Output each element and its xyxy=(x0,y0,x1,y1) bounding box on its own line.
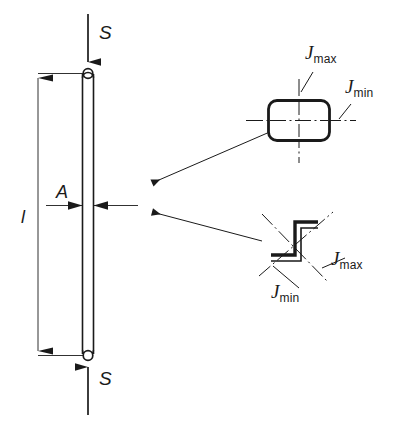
column-shaft xyxy=(83,73,94,356)
bottom-pin-joint xyxy=(83,351,93,361)
rect-section-jmin-label: Jmin xyxy=(345,76,373,100)
rect-section-jmax-label: Jmax xyxy=(305,42,337,66)
figure-canvas: S S l A Jmax Jmin Jmax Jmin xyxy=(0,0,414,442)
leader-to-z-section xyxy=(152,212,262,241)
z-jmax-subscript: max xyxy=(339,258,362,272)
rect-jmax-subscript: max xyxy=(313,52,336,66)
rectangular-section-detail xyxy=(246,72,356,163)
leader-to-rect-section xyxy=(152,131,272,183)
diagram-vector-layer xyxy=(0,0,414,442)
force-label-bottom: S xyxy=(99,368,112,390)
rect-jmin-subscript: min xyxy=(353,86,373,100)
length-label: l xyxy=(21,207,25,228)
z-jmin-subscript: min xyxy=(279,291,299,305)
z-section-jmin-label: Jmin xyxy=(271,281,299,305)
z-section-jmax-label: Jmax xyxy=(331,248,363,272)
length-dimension xyxy=(38,74,84,356)
force-label-top: S xyxy=(99,22,112,44)
area-label: A xyxy=(56,182,68,203)
